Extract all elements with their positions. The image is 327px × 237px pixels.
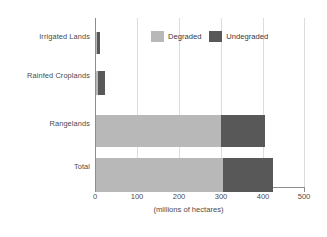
legend-item-degraded: Degraded	[151, 31, 201, 42]
bar-segment-undegraded	[223, 158, 272, 192]
category-label-rainfed-croplands: Rainfed Croplands	[27, 71, 90, 80]
x-tick-label-100: 100	[131, 192, 144, 201]
chart-legend: Degraded Undegraded	[151, 31, 268, 42]
category-label-rangelands: Rangelands	[50, 119, 90, 128]
legend-item-undegraded: Undegraded	[209, 31, 268, 42]
bar-segment-degraded	[96, 115, 221, 147]
legend-label-undegraded: Undegraded	[226, 32, 268, 41]
bar-segment-undegraded	[98, 71, 105, 95]
bar-segment-degraded	[96, 158, 223, 192]
legend-label-degraded: Degraded	[168, 32, 201, 41]
x-tick-label-200: 200	[173, 192, 186, 201]
x-tick-label-500: 500	[298, 192, 311, 201]
stacked-bar-chart: Irrigated Lands Rainfed Croplands Rangel…	[0, 0, 327, 237]
legend-swatch-degraded	[151, 31, 164, 42]
x-axis-title: (millions of hectares)	[0, 205, 327, 214]
category-label-irrigated-lands: Irrigated Lands	[39, 32, 90, 41]
x-tick-label-400: 400	[257, 192, 270, 201]
plot-area	[95, 18, 305, 188]
bar-irrigated-lands	[96, 32, 100, 54]
bar-rainfed-croplands	[96, 71, 105, 95]
bar-segment-undegraded	[221, 115, 265, 147]
legend-swatch-undegraded	[209, 31, 222, 42]
bar-total	[96, 158, 273, 192]
bar-segment-undegraded	[97, 32, 100, 54]
x-tick-label-300: 300	[215, 192, 228, 201]
x-tick-label-0: 0	[93, 192, 97, 201]
category-label-total: Total	[74, 162, 90, 171]
bar-rangelands	[96, 115, 265, 147]
gridline-500	[304, 18, 305, 188]
